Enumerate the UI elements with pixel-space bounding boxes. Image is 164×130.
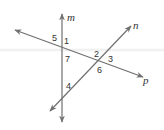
angle-label-5: 5	[52, 33, 57, 43]
line-label-m: m	[67, 11, 75, 23]
angle-label-6: 6	[97, 65, 102, 75]
angle-label-7: 7	[65, 54, 70, 64]
angle-label-2: 2	[94, 49, 99, 59]
angle-label-3: 3	[108, 54, 113, 64]
angle-label-1: 1	[64, 36, 69, 46]
line-label-p: p	[142, 74, 149, 86]
line-label-n: n	[133, 19, 139, 31]
line-p	[15, 30, 143, 77]
intersecting-lines-diagram: m n p 5 1 7 2 3 6 4	[0, 0, 164, 130]
angle-label-4: 4	[66, 81, 71, 91]
